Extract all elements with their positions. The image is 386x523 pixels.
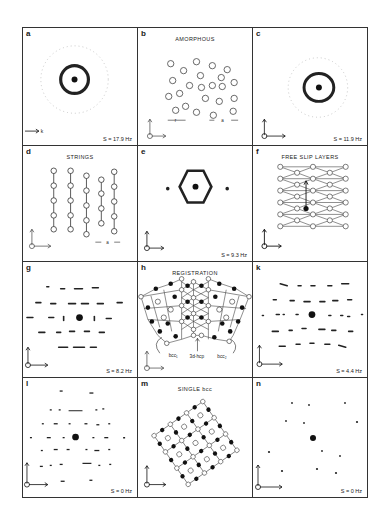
panel-g: g S = 8.2 Hz (23, 262, 138, 378)
frequency-label: S = 9.3 Hz (221, 252, 247, 258)
svg-text:a: a (221, 118, 224, 123)
svg-text:bcc₂: bcc₂ (217, 354, 226, 359)
frequency-label: S = 0 Hz (111, 488, 132, 494)
amorphous-particles: r a (138, 28, 252, 145)
svg-text:a: a (106, 240, 109, 245)
registration-lattice: bcc₁ 3d-hcp bcc₂ (138, 262, 252, 377)
bcc-lattice (138, 378, 252, 497)
panel-k: k S = 4.4 Hz (253, 262, 367, 378)
svg-text:k: k (41, 129, 44, 134)
triangular-lattice (253, 146, 367, 261)
panel-d: d STRINGS a (23, 146, 138, 262)
panel-n: n S = 0 Hz (253, 378, 367, 497)
panel-m: m SINGLE bcc (138, 378, 253, 497)
diffraction-hex-plot (138, 146, 252, 261)
panel-b: b AMORPHOUS r a (138, 28, 253, 146)
panel-f: f FREE SLIP LAYERS (253, 146, 367, 262)
panel-l: l S = 0 Hz (23, 378, 138, 497)
frequency-label: S = 11.9 Hz (334, 136, 362, 142)
frequency-label: S = 17.9 Hz (103, 136, 132, 142)
diffraction-spots-plot (253, 378, 367, 497)
figure-grid: a k S = 17.9 Hz b AMORPHOUS (22, 27, 368, 498)
diffraction-streaks-plot (23, 262, 137, 377)
frequency-label: S = 8.2 Hz (106, 368, 132, 374)
diffraction-ring-plot (253, 28, 367, 145)
strings-particles: a (23, 146, 137, 261)
diffraction-spots-plot (23, 378, 137, 497)
frequency-label: S = 4.4 Hz (336, 368, 362, 374)
panel-a: a k S = 17.9 Hz (23, 28, 138, 146)
panel-h: h REGISTRATION (138, 262, 253, 378)
frequency-label: S = 0 Hz (341, 488, 362, 494)
diffraction-ring-plot: k (23, 28, 137, 145)
svg-text:bcc₁: bcc₁ (169, 353, 178, 358)
svg-text:3d-hcp: 3d-hcp (190, 354, 205, 359)
panel-c: c S = 11.9 Hz (253, 28, 367, 146)
svg-text:r: r (175, 118, 177, 123)
diffraction-streaks-plot (253, 262, 367, 377)
panel-e: e S = 9.3 Hz (138, 146, 253, 262)
